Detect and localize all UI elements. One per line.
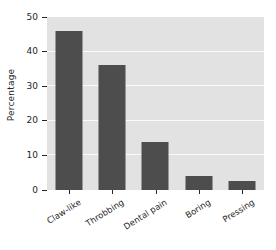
x-axis-tick-mark [112,190,113,194]
y-axis-title-label: Percentage [6,69,16,122]
bar-slot [90,17,133,190]
x-axis-tick-label: Throbbing [84,197,126,228]
x-axis-tick-mark [199,190,200,194]
bar-chart: Percentage 01020304050 Claw-likeThrobbin… [0,0,276,250]
y-axis-tick-label: 30 [27,82,38,91]
bar-slot [134,17,177,190]
x-axis-tick-label: Dental pain [122,197,169,232]
y-axis-tick-label: 20 [27,116,38,125]
bar[interactable] [55,31,82,190]
bar-series [47,17,264,190]
bar-slot [47,17,90,190]
bar-slot [177,17,220,190]
plot-area [47,17,264,190]
y-axis-title: Percentage [0,0,22,190]
y-axis-tick-label: 50 [27,13,38,22]
x-axis-tick-mark [69,190,70,194]
x-axis-tick-label: Boring [184,197,213,220]
bar[interactable] [185,176,212,190]
bar-slot [221,17,264,190]
bar[interactable] [229,181,256,190]
y-axis-tick-label: 10 [27,151,38,160]
x-axis-tick-label: Pressing [220,197,255,224]
x-axis: Claw-likeThrobbingDental painBoringPress… [47,190,264,250]
y-axis: 01020304050 [20,17,47,190]
x-axis-tick-mark [242,190,243,194]
y-axis-tick-label: 40 [27,47,38,56]
x-axis-tick-label: Claw-like [45,197,83,226]
x-axis-tick-mark [156,190,157,194]
bar[interactable] [142,142,169,190]
bar[interactable] [99,65,126,190]
y-axis-tick-label: 0 [32,186,38,195]
